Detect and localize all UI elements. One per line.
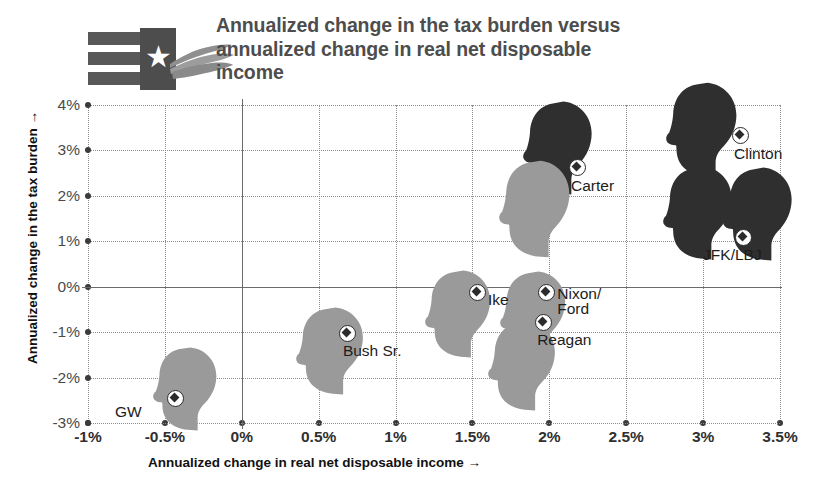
y-tick-dot	[85, 102, 91, 108]
president-silhouette	[153, 346, 225, 432]
data-point-marker[interactable]	[735, 229, 752, 246]
y-tick-dot	[85, 329, 91, 335]
gridline-vertical	[396, 105, 397, 423]
data-point-label: Ike	[488, 292, 509, 308]
data-point-label: JFK/LBJ	[703, 247, 762, 263]
data-point-marker[interactable]	[538, 284, 555, 301]
data-point-marker[interactable]	[535, 314, 552, 331]
data-point-label: Carter	[571, 178, 614, 194]
x-axis-tick-labels: -1%-0.5%0%0.5%1%1.5%2%2.5%3%3.5%	[0, 428, 821, 452]
y-tick-label: 3%	[58, 141, 80, 159]
flag-and-hand-logo: ★	[88, 28, 196, 90]
y-tick-dot	[85, 147, 91, 153]
x-tick-label: 0.5%	[301, 428, 336, 446]
y-tick-label: -2%	[52, 369, 80, 387]
y-tick-dot	[85, 238, 91, 244]
x-tick-label: 2%	[538, 428, 560, 446]
data-point-marker[interactable]	[732, 127, 749, 144]
x-tick-label: 1.5%	[455, 428, 490, 446]
data-point-marker[interactable]	[569, 159, 586, 176]
x-tick-label: -1%	[74, 428, 102, 446]
data-point-label: Reagan	[537, 332, 591, 348]
data-point-marker[interactable]	[469, 284, 486, 301]
y-tick-dot	[85, 420, 91, 426]
y-axis-title: Annualized change in the tax burden →	[25, 88, 40, 388]
x-tick-label: 2.5%	[609, 428, 644, 446]
y-tick-label: 4%	[58, 96, 80, 114]
data-point-label: Clinton	[734, 146, 782, 162]
y-tick-label: 1%	[58, 232, 80, 250]
president-silhouette	[499, 159, 579, 259]
data-point-label: Bush Sr.	[343, 343, 402, 359]
gridline-vertical	[626, 105, 627, 423]
y-tick-label: -1%	[52, 323, 80, 341]
page-title: Annualized change in the tax burden vers…	[216, 14, 646, 85]
y-tick-label: 2%	[58, 187, 80, 205]
x-tick-label: -0.5%	[145, 428, 186, 446]
x-axis-title: Annualized change in real net disposable…	[148, 455, 481, 470]
x-tick-label: 3.5%	[762, 428, 797, 446]
data-point-marker[interactable]	[339, 325, 356, 342]
gridline-vertical	[472, 105, 473, 423]
data-point-label: Nixon/Ford	[557, 286, 601, 316]
x-tick-label: 0%	[231, 428, 253, 446]
data-point-label: GW	[115, 404, 142, 420]
scatter-plot-area: GWBush Sr.IkeNixon/FordReaganCarterClint…	[88, 105, 780, 423]
y-tick-dot	[85, 375, 91, 381]
x-tick-label: 3%	[692, 428, 714, 446]
x-tick-label: 1%	[384, 428, 406, 446]
axis-zero-vertical	[242, 99, 243, 429]
y-tick-label: 0%	[58, 278, 80, 296]
y-tick-dot	[85, 193, 91, 199]
data-point-marker[interactable]	[167, 390, 184, 407]
